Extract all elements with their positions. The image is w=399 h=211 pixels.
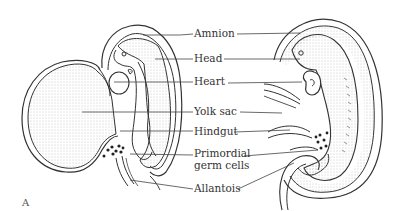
label-heart: Heart xyxy=(194,76,225,87)
label-primordial: Primordial xyxy=(194,148,250,159)
embryo-body-left xyxy=(118,39,170,168)
germ-cells-left xyxy=(103,144,125,157)
label-amnion: Amnion xyxy=(194,28,235,39)
heart-left xyxy=(109,72,129,94)
label-hindgut: Hindgut xyxy=(194,126,238,137)
right-embryo xyxy=(264,19,382,210)
label-head: Head xyxy=(194,53,222,64)
left-embryo xyxy=(22,25,182,190)
panel-label: A xyxy=(22,197,29,208)
label-germ-cells: germ cells xyxy=(194,160,249,171)
yolk-sac xyxy=(28,64,116,168)
label-yolk-sac: Yolk sac xyxy=(194,106,237,117)
label-allantois: Allantois xyxy=(194,183,241,194)
germ-cells-right xyxy=(315,132,329,150)
heart-right xyxy=(304,71,321,95)
